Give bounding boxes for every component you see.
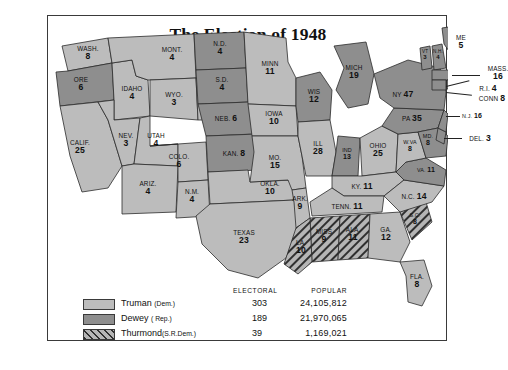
- map-legend: ELECTORAL POPULAR Truman (Dem.) 303 24,1…: [83, 287, 333, 342]
- legend-name-thurmond: Thurmond(S.R.Dem.): [121, 328, 196, 338]
- legend-name-truman: Truman (Dem.): [121, 298, 175, 308]
- map-frame: The Election of 1948: [47, 15, 447, 341]
- legend-row: Truman (Dem.) 303 24,105,812: [83, 297, 333, 312]
- state-mass: [432, 70, 448, 80]
- legend-electoral-thurmond: 39: [228, 328, 262, 338]
- legend-popular-truman: 24,105,812: [275, 298, 347, 308]
- state-label-me: ME5: [456, 34, 466, 50]
- legend-swatch-truman: [83, 299, 115, 310]
- state-ore: [56, 63, 114, 106]
- state-minn: [244, 32, 296, 106]
- legend-row: Thurmond(S.R.Dem.) 39 1,169,021: [83, 327, 333, 342]
- state-neb: [198, 102, 254, 136]
- legend-swatch-dewey: [83, 314, 115, 325]
- legend-party-dewey: ( Rep.): [151, 315, 172, 322]
- state-ala: [338, 214, 370, 260]
- state-label-ri: R.I. 4: [479, 84, 496, 93]
- state-conn: [432, 80, 446, 90]
- state-label-nj: N.J. 16: [462, 112, 482, 119]
- state-ohio: [360, 126, 398, 176]
- state-utah: [134, 116, 178, 166]
- legend-col-electoral: ELECTORAL: [233, 287, 267, 294]
- state-wis: [296, 72, 332, 122]
- leader-line-nj: [446, 116, 460, 117]
- legend-row: Dewey ( Rep.) 189 21,970,065: [83, 312, 333, 327]
- state-texas: [196, 200, 300, 278]
- legend-electoral-dewey: 189: [233, 313, 267, 323]
- legend-party-truman: (Dem.): [154, 300, 175, 307]
- legend-col-popular: POPULAR: [275, 287, 347, 294]
- state-ariz: [122, 164, 178, 214]
- legend-header: ELECTORAL POPULAR: [83, 287, 333, 297]
- legend-popular-dewey: 21,970,065: [275, 313, 347, 323]
- state-label-del: DEL. 3: [469, 134, 491, 143]
- legend-candidate-thurmond: Thurmond: [121, 328, 162, 338]
- state-iowa: [248, 104, 298, 136]
- leader-line-ri: [446, 80, 469, 87]
- legend-popular-thurmond: 1,169,021: [275, 328, 347, 338]
- state-sd: [196, 68, 248, 104]
- state-miss: [310, 216, 340, 262]
- state-nd: [194, 32, 246, 70]
- state-vt: [420, 46, 432, 70]
- state-label-conn: CONN 8: [479, 94, 505, 103]
- state-wyo: [150, 78, 198, 120]
- legend-electoral-truman: 303: [233, 298, 267, 308]
- legend-swatch-thurmond: [83, 329, 115, 340]
- state-nh: [432, 44, 446, 70]
- legend-candidate-dewey: Dewey: [121, 313, 149, 323]
- state-ind: [332, 136, 360, 176]
- leader-line-conn: [446, 92, 472, 96]
- state-fla: [400, 260, 432, 306]
- legend-candidate-truman: Truman: [121, 298, 152, 308]
- leader-line-del: [444, 138, 462, 139]
- state-label-mass: MASS.16: [488, 65, 508, 81]
- leader-line-mass: [452, 75, 480, 76]
- legend-party-thurmond: (S.R.Dem.): [162, 330, 196, 337]
- state-mich: [334, 42, 374, 108]
- legend-name-dewey: Dewey ( Rep.): [121, 313, 172, 323]
